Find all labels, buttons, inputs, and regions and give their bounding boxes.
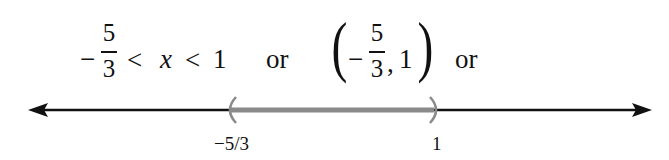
right-endpoint-label: 1	[432, 134, 442, 153]
left-endpoint-label: −5/3	[214, 134, 249, 153]
number-line-graphic	[0, 0, 669, 160]
